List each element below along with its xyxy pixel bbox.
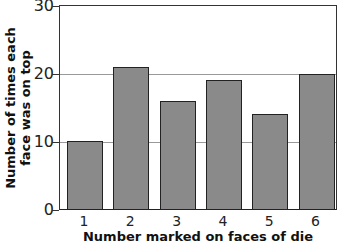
y-tick-30: 30 [24,0,54,14]
y-tick-10: 10 [24,134,54,150]
bar-5 [252,114,288,209]
x-tick-3: 3 [159,213,195,229]
y-tickmark-10 [52,142,59,143]
y-tickmark-30 [52,6,59,7]
bar-2 [113,67,149,209]
x-tick-2: 2 [112,213,148,229]
bar-3 [160,101,196,209]
y-tickmark-20 [52,74,59,75]
x-tick-1: 1 [66,213,102,229]
bar-1 [67,141,103,209]
x-tick-6: 6 [298,213,334,229]
bar-4 [206,80,242,209]
y-tick-20: 20 [24,66,54,82]
y-axis-label-line-1: Number of times each [3,27,18,189]
x-tick-4: 4 [205,213,241,229]
x-axis-label: Number marked on faces of die [59,229,337,244]
y-axis-label: Number of times each face was on top [3,27,33,189]
x-tick-5: 5 [251,213,287,229]
y-tickmark-0 [52,210,59,211]
bar-6 [299,74,335,209]
y-tick-0: 0 [24,202,54,218]
y-axis-label-line-2: face was on top [18,27,33,189]
plot-area [59,5,337,210]
gridline-20 [60,74,336,75]
